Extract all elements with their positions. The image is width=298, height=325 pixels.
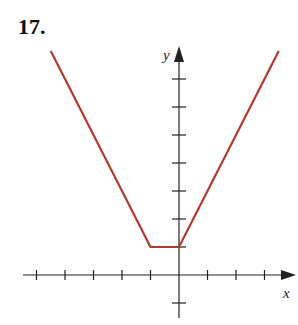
y-axis-arrow-icon: [174, 46, 184, 62]
function-curve: [51, 51, 279, 247]
x-axis-arrow-icon: [281, 270, 296, 280]
x-axis-label: x: [282, 285, 290, 301]
y-axis-label: y: [161, 47, 170, 63]
axes: [23, 46, 296, 318]
function-graph: x y: [0, 0, 298, 325]
